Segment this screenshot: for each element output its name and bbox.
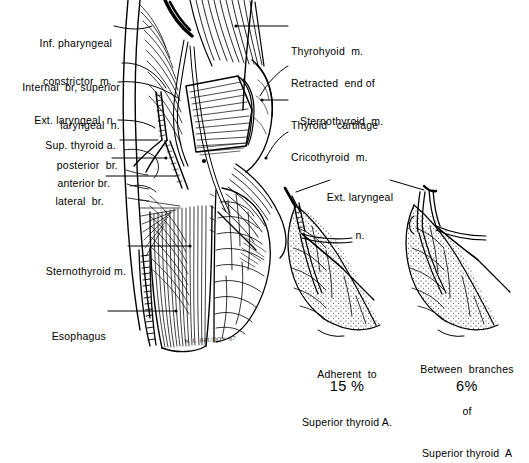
label-line: Sternothyroid m. [0,265,126,278]
label-ext-laryngeal-n-inset: Ext. laryngeal n. [313,166,407,266]
label-line: Retracted end of [291,77,383,90]
percent-inset-between-branches: 6% [406,378,528,394]
label-sternothyroid-m: Sternothyroid m. [0,240,126,303]
label-line: n. [313,229,407,242]
caption-line: Between branches [406,362,528,376]
label-line: Ext. laryngeal [313,191,407,204]
label-esophagus: Esophagus [0,305,106,368]
label-line: Cricothyroid m. [291,151,368,164]
caption-inset-between-branches: Between branches of Superior thyroid A [406,334,528,463]
caption-line: Superior thyroid A. [288,414,406,430]
caption-line: of [406,404,528,418]
label-line: Inf. pharyngeal [0,37,112,50]
caption-line: Superior thyroid A [406,446,528,460]
label-line: lateral br. [0,195,104,208]
label-lateral-br: lateral br. [0,170,104,233]
label-line: Esophagus [0,330,106,343]
caption-inset-adherent: Adherent to Superior thyroid A. [288,334,406,462]
percent-inset-adherent: 15 % [288,378,406,394]
inset-between-branches-drawing [404,186,524,336]
